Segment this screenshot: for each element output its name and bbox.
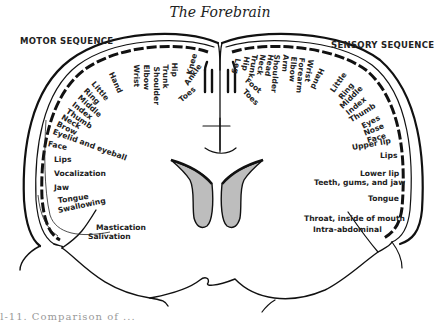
motor-label-vocalization: Vocalization xyxy=(54,169,106,178)
sensory-label-lower-lip: Lower lip xyxy=(360,169,399,178)
sensory-label-teeth-gums-and-jaw: Teeth, gums, and jaw xyxy=(314,178,405,187)
motor-label-hip: Hip xyxy=(170,63,179,77)
sensory-label-throat-inside-of-mouth: Throat, inside of mouth xyxy=(304,214,405,223)
motor-label-mastication: Mastication xyxy=(96,223,146,232)
forebrain-diagram: The Forebrain MOTOR SEQUENCE SENSORY SEQ… xyxy=(0,0,440,322)
motor-label-wrist: Wrist xyxy=(132,65,141,88)
sensory-label-tongue: Tongue xyxy=(368,194,399,203)
motor-label-elbow: Elbow xyxy=(142,65,151,90)
motor-label-lips: Lips xyxy=(54,155,71,164)
sensory-sequence-heading: SENSORY SEQUENCE xyxy=(331,40,434,50)
motor-label-jaw: Jaw xyxy=(54,183,69,192)
motor-sequence-heading: MOTOR SEQUENCE xyxy=(20,36,113,46)
motor-label-salivation: Salivation xyxy=(88,232,131,241)
sensory-label-lips: Lips xyxy=(380,151,397,160)
figure-caption: ll-11. Comparison of ... xyxy=(0,311,136,322)
motor-label-trunk: Trunk xyxy=(161,65,170,89)
motor-label-shoulder: Shoulder xyxy=(152,67,161,105)
diagram-title: The Forebrain xyxy=(0,4,440,20)
sensory-label-intra-abdominal: Intra-abdominal xyxy=(313,225,382,234)
